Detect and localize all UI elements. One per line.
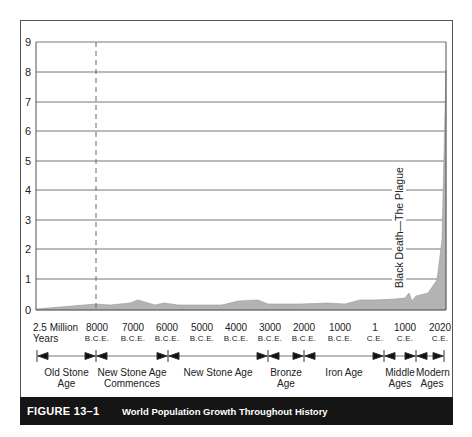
x-label-sub: B.C.E. — [255, 333, 285, 344]
gridlines — [36, 42, 446, 279]
era-label-line: New Stone Age — [168, 367, 268, 378]
x-label-2020ce: 2020 C.E. — [425, 322, 455, 344]
x-label-sub: B.C.E. — [152, 333, 182, 344]
x-label-3000bce: 3000 B.C.E. — [255, 322, 285, 344]
era-label-line: Old Stone — [37, 367, 96, 378]
x-label-main: 8000 — [82, 322, 112, 333]
x-label-main: 1 — [363, 322, 387, 333]
figure-number: FIGURE 13–1 — [27, 405, 99, 417]
x-label-main: 5000 — [187, 322, 217, 333]
x-label-1000ce: 1000 C.E. — [390, 322, 420, 344]
x-label-main: 2.5 Million — [33, 322, 78, 333]
y-tick-7: 7 — [17, 97, 31, 108]
y-tick-8: 8 — [17, 67, 31, 78]
x-label-main: 2000 — [289, 322, 319, 333]
x-label-8000bce: 8000 B.C.E. — [82, 322, 112, 344]
x-label-sub: B.C.E. — [289, 333, 319, 344]
x-label-sub: Years — [33, 333, 78, 344]
x-label-main: 2020 — [425, 322, 455, 333]
y-tick-2: 2 — [17, 244, 31, 255]
x-label-main: 7000 — [118, 322, 148, 333]
y-tick-3: 3 — [17, 215, 31, 226]
x-label-1000bce: 1000 B.C.E. — [325, 322, 355, 344]
x-label-main: 6000 — [152, 322, 182, 333]
era-bronze-age: Bronze Age — [268, 367, 304, 389]
x-label-sub: B.C.E. — [325, 333, 355, 344]
y-tick-0: 0 — [17, 305, 31, 316]
y-tick-6: 6 — [17, 126, 31, 137]
era-new-stone-age-commences: New Stone Age Commences — [96, 367, 168, 389]
era-label-line: Age — [37, 378, 96, 389]
era-label-line: Modern — [416, 367, 448, 378]
y-tick-9: 9 — [17, 37, 31, 48]
y-tick-5: 5 — [17, 156, 31, 167]
x-label-sub: C.E. — [390, 333, 420, 344]
x-label-sub: B.C.E. — [221, 333, 251, 344]
x-label-sub: B.C.E. — [82, 333, 112, 344]
x-label-4000bce: 4000 B.C.E. — [221, 322, 251, 344]
era-old-stone-age: Old Stone Age — [37, 367, 96, 389]
x-label-2000bce: 2000 B.C.E. — [289, 322, 319, 344]
era-iron-age: Iron Age — [304, 367, 384, 378]
era-label-line: Commences — [96, 378, 168, 389]
y-tick-1: 1 — [17, 274, 31, 285]
x-label-main: 3000 — [255, 322, 285, 333]
x-label-sub: C.E. — [363, 333, 387, 344]
era-modern-ages: Modern Ages — [416, 367, 448, 389]
era-label-line: Age — [268, 378, 304, 389]
figure-caption: FIGURE 13–1 World Population Growth Thro… — [20, 397, 453, 425]
x-label-7000bce: 7000 B.C.E. — [118, 322, 148, 344]
y-tick-4: 4 — [17, 185, 31, 196]
era-label-line: Bronze — [268, 367, 304, 378]
x-label-sub: C.E. — [425, 333, 455, 344]
figure-title: World Population Growth Throughout Histo… — [122, 406, 328, 417]
era-middle-ages: Middle Ages — [384, 367, 416, 389]
era-label-line: New Stone Age — [96, 367, 168, 378]
x-label-main: 1000 — [325, 322, 355, 333]
era-label-line: Iron Age — [304, 367, 384, 378]
era-timeline — [37, 350, 444, 362]
era-label-line: Ages — [416, 378, 448, 389]
x-label-6000bce: 6000 B.C.E. — [152, 322, 182, 344]
x-label-5000bce: 5000 B.C.E. — [187, 322, 217, 344]
x-label-main: 4000 — [221, 322, 251, 333]
x-label-1ce: 1 C.E. — [363, 322, 387, 344]
x-label-sub: B.C.E. — [118, 333, 148, 344]
x-label-sub: B.C.E. — [187, 333, 217, 344]
era-label-line: Ages — [384, 378, 416, 389]
plague-annotation: Black Death—The Plague — [393, 168, 405, 288]
x-label-2.5m: 2.5 Million Years — [33, 322, 78, 344]
era-new-stone-age: New Stone Age — [168, 367, 268, 378]
x-label-main: 1000 — [390, 322, 420, 333]
era-label-line: Middle — [384, 367, 416, 378]
